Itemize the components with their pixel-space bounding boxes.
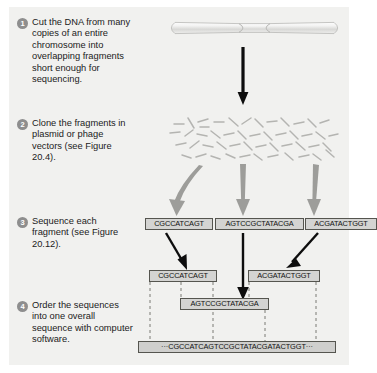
chromosome-icon [167,20,342,36]
sequenced-fragment-2: AGTCCGCTATACGA [215,218,304,230]
ordered-fragment-3: ACGATACTGGT [248,270,320,282]
assembled-sequence: ···CGCCATCAGTCCGCTATACGATACTGGT··· [138,341,336,353]
step-2: 2 Clone the fragments in plasmid or phag… [17,118,135,164]
step-1-badge: 1 [17,18,28,29]
step-2-text: Clone the fragments in plasmid or phage … [32,118,135,164]
step-1-text: Cut the DNA from many copies of an entir… [32,17,135,85]
ordered-fragment-2: AGTCCGCTATACGA [180,298,269,310]
step-4: 4 Order the sequences into one overall s… [17,300,135,346]
step-3-text: Sequence each fragment (see Figure 20.12… [32,216,135,250]
step-4-badge: 4 [17,301,28,312]
step-1: 1 Cut the DNA from many copies of an ent… [17,17,135,85]
step-3-badge: 3 [17,217,28,228]
step-2-badge: 2 [17,119,28,130]
sequenced-fragment-3: ACGATACTGGT [305,218,377,230]
step-3: 3 Sequence each fragment (see Figure 20.… [17,216,135,250]
step-4-text: Order the sequences into one overall seq… [32,300,135,346]
sequenced-fragment-1: CGCCATCAGT [145,218,213,230]
ordered-fragment-1: CGCCATCAGT [149,270,217,282]
